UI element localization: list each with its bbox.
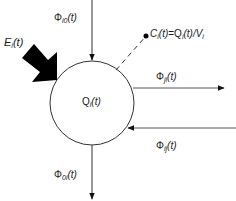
concentration-point-dot <box>144 34 149 39</box>
inflow-top-label: Φi0(t) <box>54 13 77 24</box>
outflow-bottom-label: Φ0i(t) <box>54 170 77 181</box>
concentration-pointer-dashed <box>116 36 146 70</box>
outflow-right-label: Φji(t) <box>156 72 177 83</box>
inflow-right-label: Φij(t) <box>156 141 177 152</box>
compartment-label: Qi(t) <box>82 97 101 108</box>
external-input-arrow <box>22 44 57 82</box>
external-input-label: Ei(t) <box>4 37 23 49</box>
concentration-equation: Ci(t)=Qi(t)/Vi <box>150 29 204 40</box>
